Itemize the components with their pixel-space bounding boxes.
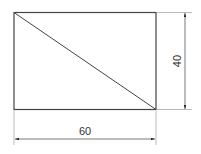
vertical-dimension-label: 40 [171, 55, 183, 67]
diagonal-line [14, 13, 156, 110]
technical-drawing: 60 40 [0, 0, 201, 154]
horizontal-dimension-label: 60 [79, 125, 91, 137]
